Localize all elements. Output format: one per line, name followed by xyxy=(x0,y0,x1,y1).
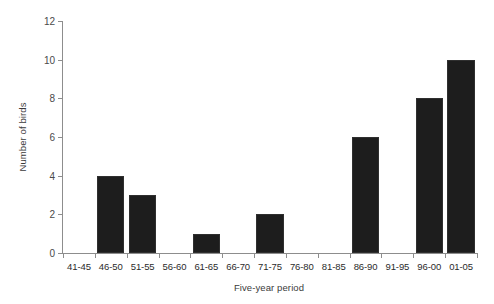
x-tick-mark xyxy=(63,253,64,258)
x-tick-label: 46-50 xyxy=(99,261,123,272)
y-tick-label: 8 xyxy=(49,93,55,104)
x-tick-label: 96-00 xyxy=(417,261,441,272)
x-tick-mark xyxy=(95,253,96,258)
x-tick-mark xyxy=(286,253,287,258)
y-tick-mark xyxy=(58,60,63,61)
y-tick-label: 4 xyxy=(49,170,55,181)
bar-chart-figure: Number of birds 024681012 41-4546-5051-5… xyxy=(0,0,494,304)
y-tick-label: 10 xyxy=(44,54,55,65)
x-axis-title: Five-year period xyxy=(62,282,476,293)
y-tick-mark xyxy=(58,21,63,22)
x-tick-label: 41-45 xyxy=(67,261,91,272)
x-tick-label: 81-85 xyxy=(322,261,346,272)
bar xyxy=(97,176,124,253)
x-tick-mark xyxy=(413,253,414,258)
plot-area: 024681012 41-4546-5051-5556-6061-6566-70… xyxy=(62,21,477,254)
x-tick-mark xyxy=(445,253,446,258)
bar xyxy=(193,234,220,253)
bar xyxy=(352,137,379,253)
bar xyxy=(129,195,156,253)
x-tick-label: 61-65 xyxy=(194,261,218,272)
bar xyxy=(447,60,474,253)
y-tick-mark xyxy=(58,137,63,138)
y-tick-label: 0 xyxy=(49,248,55,259)
y-tick-mark xyxy=(58,176,63,177)
x-tick-label: 76-80 xyxy=(290,261,314,272)
x-tick-label: 91-95 xyxy=(385,261,409,272)
x-tick-label: 71-75 xyxy=(258,261,282,272)
bar xyxy=(416,98,443,253)
y-tick-mark xyxy=(58,98,63,99)
x-tick-label: 01-05 xyxy=(449,261,473,272)
x-tick-label: 86-90 xyxy=(354,261,378,272)
x-tick-mark xyxy=(381,253,382,258)
x-tick-mark xyxy=(190,253,191,258)
y-tick-label: 2 xyxy=(49,209,55,220)
x-tick-mark xyxy=(222,253,223,258)
x-tick-label: 56-60 xyxy=(163,261,187,272)
x-tick-mark xyxy=(254,253,255,258)
x-tick-mark xyxy=(477,253,478,258)
x-tick-mark xyxy=(159,253,160,258)
y-tick-label: 6 xyxy=(49,132,55,143)
x-tick-label: 66-70 xyxy=(226,261,250,272)
y-tick-label: 12 xyxy=(44,16,55,27)
x-tick-mark xyxy=(350,253,351,258)
y-tick-mark xyxy=(58,214,63,215)
x-tick-mark xyxy=(127,253,128,258)
x-tick-mark xyxy=(318,253,319,258)
y-axis-title: Number of birds xyxy=(14,21,32,253)
bar xyxy=(256,214,283,253)
x-tick-label: 51-55 xyxy=(131,261,155,272)
